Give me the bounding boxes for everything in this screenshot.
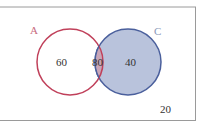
set-a-only-value: 60 [56,56,68,68]
intersection-value: 80 [92,56,104,68]
set-c-label: C [154,25,161,37]
outside-value: 20 [160,103,172,115]
venn-diagram: A C 60 80 40 20 [0,0,197,127]
set-a-label: A [30,24,38,36]
set-c-only-value: 40 [125,56,137,68]
venn-svg: A C 60 80 40 20 [0,0,197,127]
